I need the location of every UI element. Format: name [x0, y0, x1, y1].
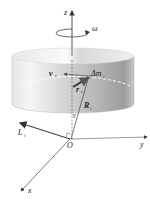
y-axis	[70, 137, 147, 139]
origin-label: O	[67, 141, 73, 150]
gamma-label: γ	[73, 111, 76, 119]
R-label: R	[83, 101, 90, 110]
cylinder-top	[12, 48, 134, 64]
x-label: x	[27, 186, 32, 195]
L-sub: i	[24, 133, 26, 138]
y-label: y	[139, 140, 144, 149]
dm-label: Δm	[90, 69, 102, 78]
x-axis	[21, 139, 70, 191]
L-label: L	[17, 128, 23, 137]
rotating-cylinder-diagram: z ω v i Δm i r i R i γ L i y x O	[0, 0, 150, 204]
v-label: v	[49, 69, 53, 78]
z-label: z	[63, 8, 68, 17]
omega-label: ω	[92, 24, 98, 33]
L-vector	[20, 123, 70, 139]
rotation-arrow-icon	[56, 29, 90, 37]
right-angle-marker	[66, 133, 71, 137]
cylinder-side	[12, 56, 134, 113]
